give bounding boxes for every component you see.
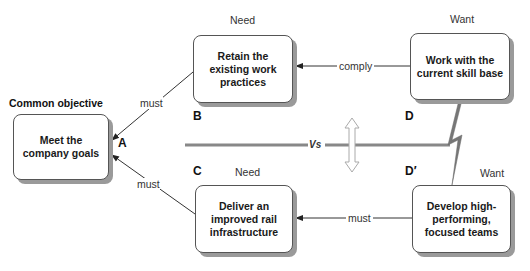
vs-label: Vs [309,139,321,150]
label-must-bottom: must [137,178,160,190]
letter-c: C [193,164,202,178]
label-must-right: must [346,212,373,224]
box-c-need: Deliver an improved rail infrastructure [195,185,293,253]
heading-want-d-prime: Want [480,167,504,179]
letter-b: B [193,109,202,123]
letter-a: A [118,136,127,150]
label-must-top: must [140,97,163,109]
common-objective-label: Common objective [9,97,103,109]
letter-d: D [405,109,414,123]
label-comply: comply [337,60,374,72]
letter-d-prime: D′ [405,164,417,178]
heading-need-c: Need [235,166,260,178]
heading-want-d: Want [450,13,474,25]
box-d-want: Work with the current skill base [410,33,510,100]
box-b-need: Retain the existing work practices [193,35,293,103]
box-a-objective: Meet the company goals [13,114,109,180]
box-d-prime-want: Develop high-performing, focused teams [412,185,511,253]
heading-need-b: Need [230,14,255,26]
